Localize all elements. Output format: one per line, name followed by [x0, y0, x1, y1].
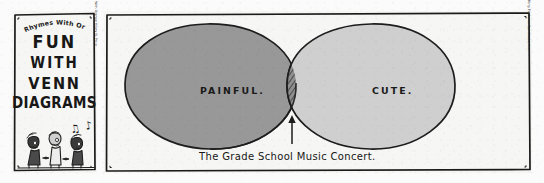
- venn-circle-right: [287, 24, 455, 149]
- title-line-1: FUN: [12, 33, 97, 51]
- title-panel: Rhymes With Orange FUN WITH VENN DIAGRAM…: [12, 11, 97, 173]
- pointer-arrow: [288, 115, 295, 144]
- title-panel-credit: Rhymes With Orange Hilary B. Price: [90, 0, 98, 57]
- copyright-credit: © 2003 Hilary B. Price / Dist. by King F…: [523, 0, 531, 55]
- singing-children-illustration: [16, 125, 96, 171]
- title-line-2: WITH: [12, 55, 97, 70]
- venn-label-cute: CUTE.: [372, 85, 413, 96]
- venn-label-painful: PAINFUL.: [200, 85, 265, 96]
- comic-strip: Rhymes With Orange FUN WITH VENN DIAGRAM…: [0, 0, 544, 183]
- venn-diagram: [104, 11, 532, 173]
- venn-panel: PAINFUL. CUTE. The Grade School Music Co…: [104, 11, 532, 173]
- title-line-3: VENN: [12, 75, 97, 92]
- title-line-4: DIAGRAMS: [12, 95, 97, 110]
- comic-caption: The Grade School Music Concert.: [199, 151, 376, 163]
- title-stack: FUN WITH VENN DIAGRAMS: [12, 33, 97, 115]
